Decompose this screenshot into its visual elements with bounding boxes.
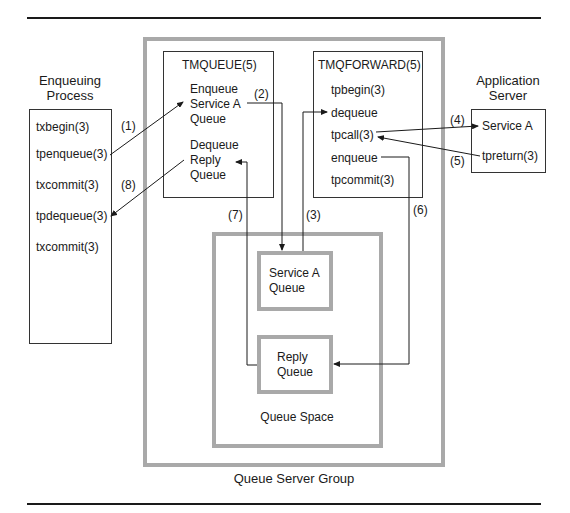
top-rule: [27, 17, 541, 19]
reply-queue-line-2: Queue: [277, 365, 313, 380]
step-label-4: (4): [450, 113, 465, 128]
queue-server-group-label: Queue Server Group: [194, 471, 394, 486]
step-label-8: (8): [121, 178, 136, 193]
application-server-title-2: Server: [458, 88, 558, 103]
application-server-item-service-a: Service A: [482, 119, 533, 134]
tmqueue-dequeue-line-3: Queue: [190, 168, 226, 183]
tmqforward-item-dequeue: dequeue: [331, 106, 378, 121]
tmqueue-enqueue-line-2: Service A: [190, 97, 241, 112]
tmqueue-enqueue-line-1: Enqueue: [190, 82, 238, 97]
service-a-queue-line-1: Service A: [269, 266, 320, 281]
step-label-6: (6): [413, 203, 428, 218]
tmqforward-title: TMQFORWARD(5): [318, 58, 421, 73]
tmqforward-item-enqueue: enqueue: [331, 151, 378, 166]
enqueuing-process-box: [29, 109, 112, 344]
enqueuing-item-txcommit-2: txcommit(3): [36, 240, 99, 255]
reply-queue-line-1: Reply: [277, 350, 308, 365]
step-label-5: (5): [450, 154, 465, 169]
enqueuing-process-title-2: Process: [20, 88, 120, 103]
step-label-3: (3): [306, 208, 321, 223]
tmqforward-item-tpcommit: tpcommit(3): [331, 173, 394, 188]
tmqueue-dequeue-line-1: Dequeue: [190, 138, 239, 153]
enqueuing-item-txbegin: txbegin(3): [36, 120, 89, 135]
queue-space-label: Queue Space: [222, 410, 372, 425]
service-a-queue-line-2: Queue: [269, 281, 305, 296]
enqueuing-item-tpenqueue: tpenqueue(3): [36, 147, 107, 162]
application-server-item-tpreturn: tpreturn(3): [482, 149, 538, 164]
enqueuing-item-txcommit-1: txcommit(3): [36, 178, 99, 193]
bottom-rule: [27, 503, 541, 505]
enqueuing-item-tpdequeue: tpdequeue(3): [36, 209, 107, 224]
tmqueue-enqueue-line-3: Queue: [190, 112, 226, 127]
step-label-2: (2): [254, 87, 269, 102]
tmqforward-item-tpbegin: tpbegin(3): [331, 83, 385, 98]
tmqueue-title: TMQUEUE(5): [182, 58, 257, 73]
step-label-1: (1): [121, 119, 136, 134]
enqueuing-process-title-1: Enqueuing: [20, 73, 120, 88]
tmqforward-item-tpcall: tpcall(3): [331, 128, 374, 143]
application-server-title-1: Application: [458, 73, 558, 88]
step-label-7: (7): [228, 208, 243, 223]
tmqueue-dequeue-line-2: Reply: [190, 153, 221, 168]
